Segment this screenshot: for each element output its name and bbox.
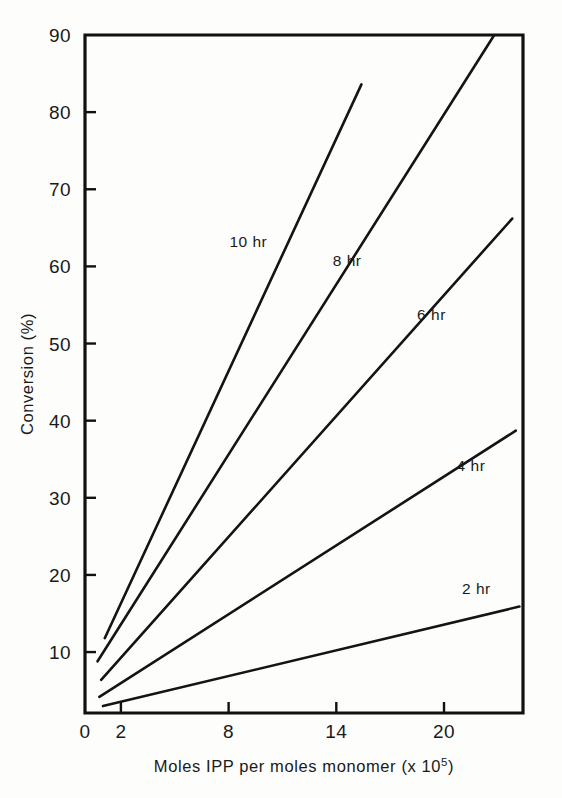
y-tick-label: 80: [49, 102, 71, 123]
x-axis-title: Moles IPP per moles monomer (x 105): [154, 756, 454, 775]
x-tick-label: 14: [325, 721, 347, 742]
x-tick-label: 20: [433, 721, 455, 742]
series-label-4-hr: 4 hr: [457, 457, 486, 474]
data-series-group: [98, 35, 520, 706]
x-axis-title-exponent: 5: [441, 756, 448, 768]
x-tick-label: 0: [80, 721, 91, 742]
x-axis-tick-labels: 0281420: [80, 721, 455, 742]
y-tick-label: 90: [49, 25, 71, 46]
y-axis-title-text: Conversion (%): [18, 313, 36, 435]
y-tick-label: 60: [49, 256, 71, 277]
series-label-8-hr: 8 hr: [333, 252, 362, 269]
chart-plot: 102030405060708090 0281420 10 hr8 hr6 hr…: [0, 0, 562, 798]
x-axis-title-text: Moles IPP per moles monomer (x 105): [154, 756, 454, 775]
y-tick-label: 30: [49, 488, 71, 509]
x-axis-title-tail: ): [448, 757, 454, 775]
figure-canvas: 102030405060708090 0281420 10 hr8 hr6 hr…: [0, 0, 562, 798]
series-label-2-hr: 2 hr: [462, 580, 491, 597]
y-axis-tick-labels: 102030405060708090: [49, 25, 71, 663]
series-label-6-hr: 6 hr: [417, 306, 446, 323]
y-axis-ticks: [85, 112, 96, 652]
series-line-6-hr: [101, 219, 512, 680]
x-axis-ticks: [121, 702, 444, 713]
x-axis-title-main: Moles IPP per moles monomer (x 10: [154, 757, 441, 775]
x-tick-label: 8: [223, 721, 234, 742]
y-tick-label: 40: [49, 411, 71, 432]
series-label-10-hr: 10 hr: [229, 233, 267, 250]
y-tick-label: 50: [49, 334, 71, 355]
y-axis-title: Conversion (%): [18, 313, 36, 435]
y-tick-label: 70: [49, 179, 71, 200]
axis-frame-path: [85, 35, 523, 713]
series-line-8-hr: [98, 35, 495, 661]
series-line-2-hr: [103, 607, 519, 707]
x-tick-label: 2: [115, 721, 126, 742]
y-tick-label: 10: [49, 642, 71, 663]
plot-frame: [85, 35, 523, 713]
y-tick-label: 20: [49, 565, 71, 586]
